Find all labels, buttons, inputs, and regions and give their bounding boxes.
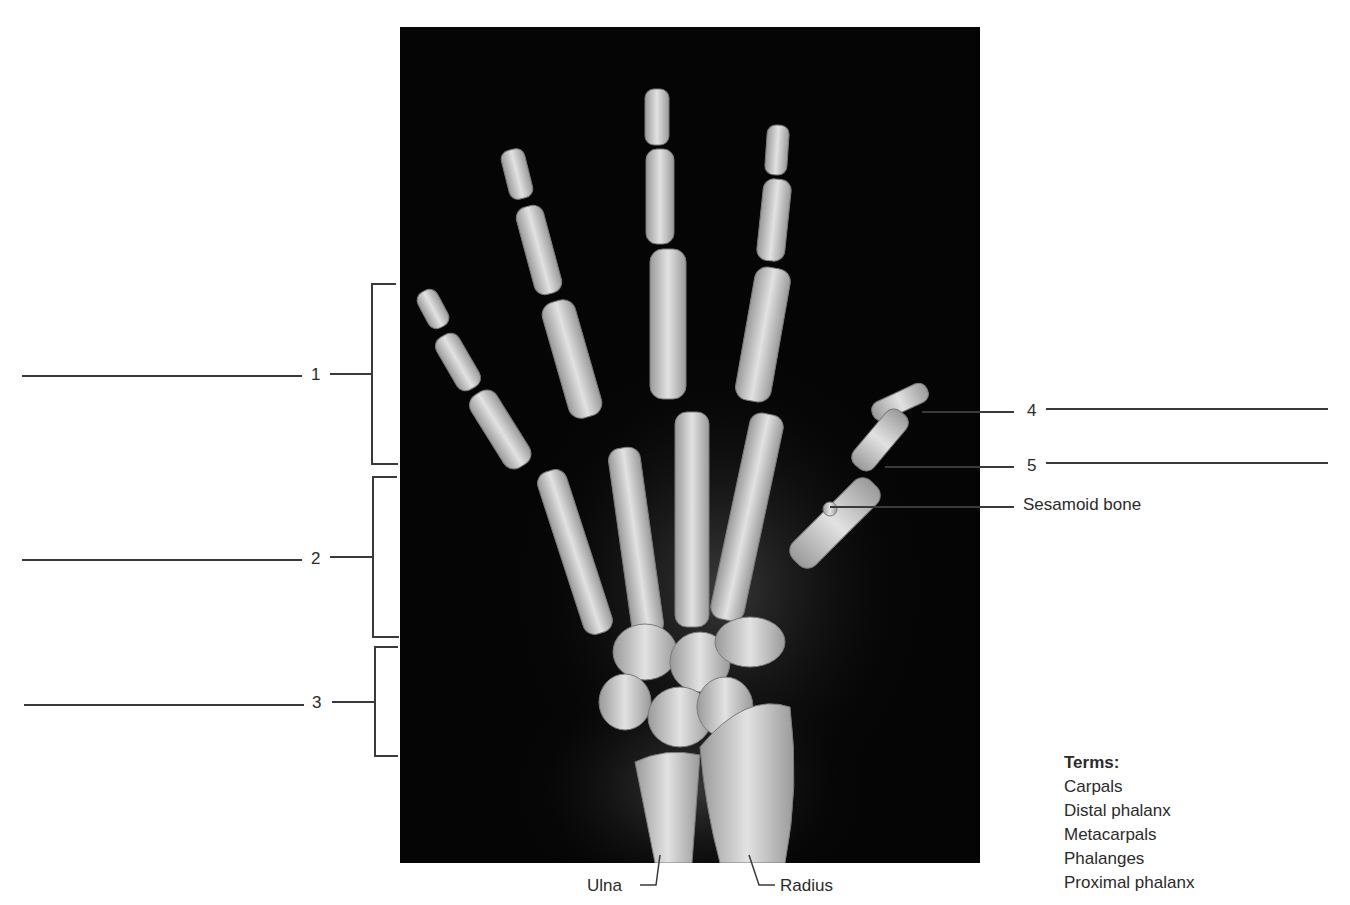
label-4-blank-line [1046, 408, 1328, 410]
radius-leader [745, 853, 777, 893]
label-3-leader [332, 701, 374, 703]
sesamoid-bone-label: Sesamoid bone [1023, 496, 1141, 513]
xray-image [400, 27, 980, 863]
bracket-3-bottom [374, 755, 398, 757]
ulna-leader [636, 853, 666, 893]
bracket-2 [372, 476, 374, 637]
bracket-2-bottom [372, 636, 399, 638]
bracket-1 [371, 283, 373, 464]
terms-list: Terms: Carpals Distal phalanx Metacarpal… [1064, 751, 1194, 895]
terms-title: Terms: [1064, 751, 1194, 775]
sesamoid-leader [830, 506, 1014, 508]
bracket-3-top [374, 646, 398, 648]
term-item: Phalanges [1064, 847, 1194, 871]
label-1: 1 [311, 366, 320, 383]
label-1-blank-line [22, 375, 302, 377]
label-5-blank-line [1046, 462, 1328, 464]
term-item: Metacarpals [1064, 823, 1194, 847]
label-1-leader [330, 373, 372, 375]
term-item: Proximal phalanx [1064, 871, 1194, 895]
hand-skeleton-illustration [400, 27, 980, 863]
radius-label: Radius [780, 877, 833, 894]
label-4: 4 [1027, 402, 1036, 419]
label-5-leader [885, 466, 1014, 468]
label-5: 5 [1027, 457, 1036, 474]
bracket-1-bottom [371, 463, 398, 465]
bracket-1-top [371, 283, 396, 285]
term-item: Carpals [1064, 775, 1194, 799]
label-2-blank-line [22, 559, 302, 561]
label-3-blank-line [24, 704, 304, 706]
label-2-leader [330, 556, 372, 558]
term-item: Distal phalanx [1064, 799, 1194, 823]
ulna-label: Ulna [587, 877, 622, 894]
label-2: 2 [311, 550, 320, 567]
label-3: 3 [312, 694, 321, 711]
bracket-2-top [372, 476, 397, 478]
bracket-3 [374, 646, 376, 756]
label-4-leader [922, 411, 1014, 413]
